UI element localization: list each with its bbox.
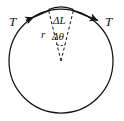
tension-label-right: T <box>105 15 112 28</box>
tension-arrow-right <box>72 10 99 21</box>
angle-arc <box>57 45 66 46</box>
radius-label: r <box>41 29 45 40</box>
angle-label: Δθ <box>52 31 64 42</box>
arc-length-label: ΔL <box>53 15 66 26</box>
tension-arrow-left <box>26 10 51 21</box>
tension-label-left: T <box>9 15 16 28</box>
physics-diagram-circular-tension: T T ΔL r Δθ <box>0 0 124 121</box>
